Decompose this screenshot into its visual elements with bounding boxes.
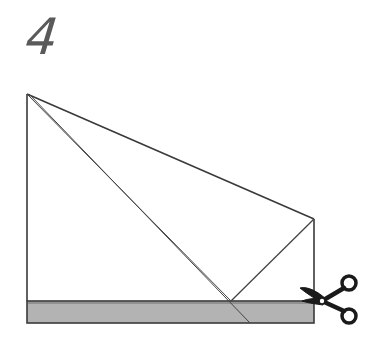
diagonal-fold-line-parallel: [29, 94, 250, 323]
cut-strip: [27, 301, 314, 323]
fold-lines: [27, 94, 314, 323]
paper-outline: [27, 94, 314, 301]
origami-diagram: [0, 0, 382, 348]
